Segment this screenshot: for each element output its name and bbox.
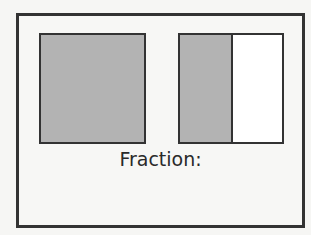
figure-frame: Fraction: [16,13,305,228]
fraction-label: Fraction: [19,148,302,170]
unshaded-half [231,35,282,142]
half-shaded-rectangle [178,33,284,144]
shaded-half [180,35,231,142]
whole-shaded-square [39,33,146,144]
